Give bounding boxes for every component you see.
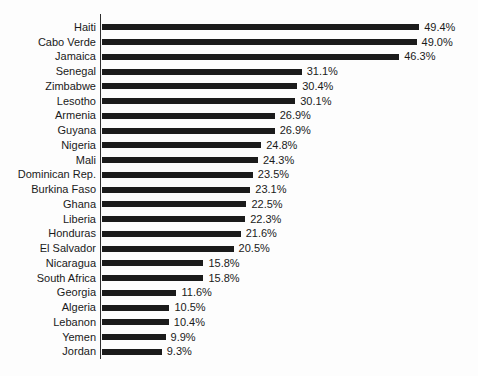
category-label: Ghana — [0, 199, 101, 210]
category-label: Burkina Faso — [0, 184, 101, 195]
value-label: 30.1% — [300, 96, 331, 107]
bar-area: 49.0% — [101, 35, 478, 50]
category-label: Honduras — [0, 228, 101, 239]
bar-area: 21.6% — [101, 227, 478, 242]
value-label: 15.8% — [208, 258, 239, 269]
bar — [102, 349, 162, 355]
chart-row: Zimbabwe30.4% — [0, 79, 478, 94]
bar — [102, 172, 253, 178]
category-label: Lebanon — [0, 317, 101, 328]
bar-area: 30.1% — [101, 94, 478, 109]
bar — [102, 83, 297, 89]
chart-row: Ghana22.5% — [0, 197, 478, 212]
value-label: 26.9% — [280, 125, 311, 136]
value-label: 15.8% — [208, 273, 239, 284]
bar-area: 20.5% — [101, 241, 478, 256]
bar-area: 9.9% — [101, 330, 478, 345]
chart-row: Algeria10.5% — [0, 300, 478, 315]
chart-row: Liberia22.3% — [0, 212, 478, 227]
bar — [102, 216, 245, 222]
value-label: 46.3% — [404, 51, 435, 62]
category-label: Algeria — [0, 302, 101, 313]
bar-area: 10.5% — [101, 300, 478, 315]
value-label: 9.9% — [171, 332, 196, 343]
chart-row: El Salvador20.5% — [0, 241, 478, 256]
value-label: 10.5% — [174, 302, 205, 313]
value-label: 49.4% — [424, 22, 455, 33]
chart-row: Nigeria24.8% — [0, 138, 478, 153]
chart-row: Mali24.3% — [0, 153, 478, 168]
bar-area: 26.9% — [101, 109, 478, 124]
category-label: Zimbabwe — [0, 81, 101, 92]
bar — [102, 187, 250, 193]
bar-area: 23.1% — [101, 182, 478, 197]
value-label: 21.6% — [246, 228, 277, 239]
bar — [102, 142, 261, 148]
bar-area: 30.4% — [101, 79, 478, 94]
bar-area: 26.9% — [101, 123, 478, 138]
bar — [102, 319, 169, 325]
value-label: 11.6% — [181, 287, 211, 298]
bar-area: 23.5% — [101, 168, 478, 183]
category-label: Guyana — [0, 125, 101, 136]
bar — [102, 305, 169, 311]
chart-row: Burkina Faso23.1% — [0, 182, 478, 197]
bar — [102, 201, 246, 207]
bar — [102, 275, 203, 281]
category-label: Cabo Verde — [0, 37, 101, 48]
value-label: 22.5% — [251, 199, 282, 210]
chart-row: Jordan9.3% — [0, 345, 478, 360]
bar — [102, 39, 417, 45]
value-label: 31.1% — [307, 66, 338, 77]
value-label: 9.3% — [167, 346, 192, 357]
bar-chart-figure: Haiti49.4%Cabo Verde49.0%Jamaica46.3%Sen… — [0, 0, 478, 376]
chart-row: Haiti49.4% — [0, 20, 478, 35]
bar — [102, 128, 275, 134]
bar-area: 24.3% — [101, 153, 478, 168]
chart-row: Dominican Rep.23.5% — [0, 168, 478, 183]
bar — [102, 69, 302, 75]
chart-row: Armenia26.9% — [0, 109, 478, 124]
bar-area: 15.8% — [101, 256, 478, 271]
category-label: Jamaica — [0, 51, 101, 62]
bar — [102, 334, 166, 340]
chart-row: Honduras21.6% — [0, 227, 478, 242]
category-label: Haiti — [0, 22, 101, 33]
chart-row: Lebanon10.4% — [0, 315, 478, 330]
bar — [102, 24, 419, 30]
bar-area: 10.4% — [101, 315, 478, 330]
bar-area: 9.3% — [101, 345, 478, 360]
category-label: Liberia — [0, 214, 101, 225]
category-label: Nicaragua — [0, 258, 101, 269]
chart-row: Senegal31.1% — [0, 64, 478, 79]
chart-row: Yemen9.9% — [0, 330, 478, 345]
bar — [102, 231, 241, 237]
chart-row: Jamaica46.3% — [0, 50, 478, 65]
chart-row: Guyana26.9% — [0, 123, 478, 138]
category-label: Nigeria — [0, 140, 101, 151]
bar — [102, 246, 234, 252]
bar-area: 46.3% — [101, 50, 478, 65]
category-label: Armenia — [0, 110, 101, 121]
category-label: Mali — [0, 155, 101, 166]
chart-row: South Africa15.8% — [0, 271, 478, 286]
bar-area: 49.4% — [101, 20, 478, 35]
bar-area: 22.5% — [101, 197, 478, 212]
bar-area: 15.8% — [101, 271, 478, 286]
category-label: Yemen — [0, 332, 101, 343]
value-label: 49.0% — [422, 37, 453, 48]
bar-area: 24.8% — [101, 138, 478, 153]
category-label: Georgia — [0, 287, 101, 298]
bar-area: 22.3% — [101, 212, 478, 227]
value-label: 23.5% — [258, 169, 289, 180]
bar-area: 11.6% — [101, 286, 478, 301]
chart-row: Georgia11.6% — [0, 286, 478, 301]
value-label: 23.1% — [255, 184, 286, 195]
value-label: 24.3% — [263, 155, 294, 166]
value-label: 26.9% — [280, 110, 311, 121]
category-label: Dominican Rep. — [0, 169, 101, 180]
value-label: 30.4% — [302, 81, 333, 92]
value-label: 20.5% — [239, 243, 270, 254]
bar — [102, 113, 275, 119]
category-label: Jordan — [0, 346, 101, 357]
